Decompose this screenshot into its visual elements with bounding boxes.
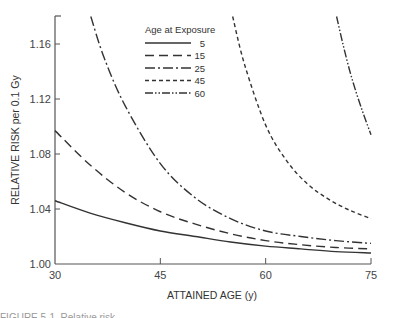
legend-label-45: 45 (194, 75, 205, 86)
series-line-25 (91, 17, 371, 244)
legend-label-15: 15 (194, 50, 205, 61)
y-tick-label: 1.08 (30, 148, 51, 160)
series-line-60 (337, 17, 371, 135)
chart: 1.001.041.081.121.1630456075ATTAINED AGE… (0, 0, 394, 318)
x-tick-label: 75 (365, 269, 377, 281)
legend-title: Age at Exposure (145, 24, 215, 35)
legend-label-25: 25 (194, 63, 205, 74)
y-axis-title: RELATIVE RISK per 0.1 Gy (9, 75, 21, 205)
legend-label-5: 5 (200, 38, 205, 49)
x-axis-title: ATTAINED AGE (y) (167, 289, 257, 301)
y-tick-label: 1.04 (30, 203, 51, 215)
figure-caption: FIGURE 5-1. Relative risk (0, 311, 115, 318)
x-tick-label: 45 (154, 269, 166, 281)
x-tick-label: 60 (260, 269, 272, 281)
legend-label-60: 60 (194, 88, 205, 99)
axes: 1.001.041.081.121.1630456075ATTAINED AGE… (9, 16, 377, 301)
series-line-15 (55, 131, 371, 249)
y-tick-label: 1.12 (30, 93, 51, 105)
y-tick-label: 1.16 (30, 38, 51, 50)
series-line-45 (233, 17, 371, 219)
series-line-5 (55, 201, 371, 253)
y-tick-label: 1.00 (30, 258, 51, 270)
data-lines (55, 17, 371, 254)
legend: Age at Exposure515254560 (145, 24, 215, 99)
x-tick-label: 30 (49, 269, 61, 281)
